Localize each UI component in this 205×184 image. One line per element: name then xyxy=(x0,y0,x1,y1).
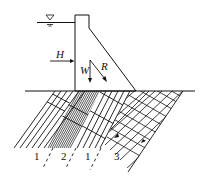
stratum-label-1a: 1 xyxy=(34,150,40,162)
force-r-label: R xyxy=(100,60,108,72)
stratum-label-2: 2 xyxy=(61,150,67,162)
dam-diagram: H W R xyxy=(0,0,205,184)
force-h: H xyxy=(50,48,75,63)
force-w-label: W xyxy=(80,64,90,76)
arrow-right-icon xyxy=(70,59,75,63)
water-surface xyxy=(37,15,75,26)
stratum-label-1b: 1 xyxy=(85,150,91,162)
water-level-icon xyxy=(46,15,54,20)
force-h-label: H xyxy=(55,48,65,60)
stratum-label-3: 3 xyxy=(114,150,120,162)
